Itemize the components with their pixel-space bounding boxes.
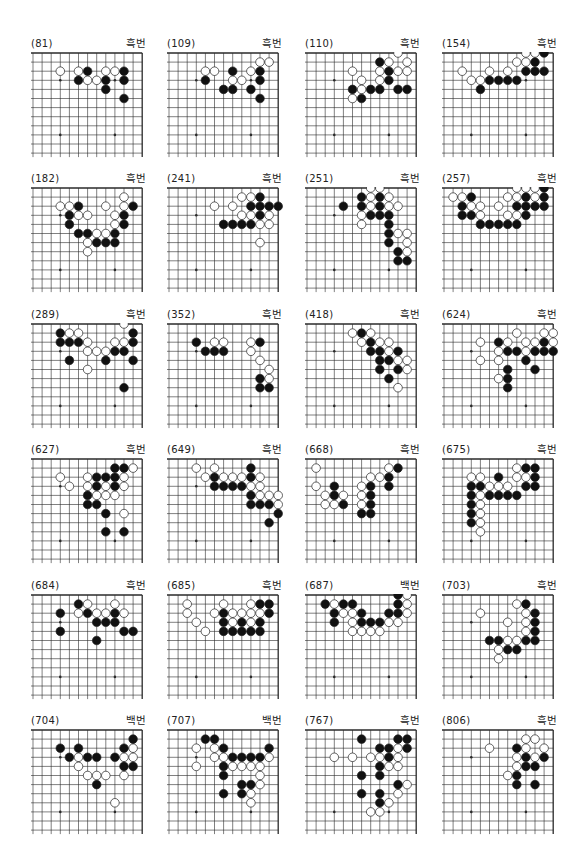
white-stone xyxy=(312,464,321,473)
black-stone xyxy=(467,509,476,518)
black-stone xyxy=(65,211,74,220)
black-stone xyxy=(531,762,540,771)
black-stone xyxy=(540,338,549,347)
white-stone xyxy=(183,609,192,618)
black-stone xyxy=(111,229,120,238)
go-problem: (649)흑번 xyxy=(167,444,282,572)
white-stone xyxy=(494,482,503,491)
star-point xyxy=(250,811,253,814)
white-stone xyxy=(348,753,357,762)
white-stone xyxy=(201,627,210,636)
black-stone xyxy=(513,347,522,356)
black-stone xyxy=(129,202,138,211)
black-stone xyxy=(111,482,120,491)
black-stone xyxy=(210,735,219,744)
black-stone xyxy=(540,67,549,76)
go-board xyxy=(167,187,284,295)
black-stone xyxy=(467,518,476,527)
white-stone xyxy=(102,347,111,356)
white-stone xyxy=(210,609,219,618)
white-stone xyxy=(476,338,485,347)
black-stone xyxy=(485,636,494,645)
go-board xyxy=(31,729,148,837)
black-stone xyxy=(503,365,512,374)
white-stone xyxy=(403,238,412,247)
problem-number: (704) xyxy=(31,715,59,726)
white-stone xyxy=(83,238,92,247)
star-point xyxy=(195,676,198,679)
black-stone xyxy=(102,76,111,85)
problem-number: (352) xyxy=(167,309,195,320)
black-stone xyxy=(531,202,540,211)
white-stone xyxy=(385,338,394,347)
black-stone xyxy=(385,238,394,247)
white-stone xyxy=(366,808,375,817)
white-stone xyxy=(394,67,403,76)
black-stone xyxy=(503,383,512,392)
black-stone xyxy=(503,76,512,85)
black-stone xyxy=(129,735,138,744)
white-stone xyxy=(540,329,549,338)
white-stone xyxy=(92,229,101,238)
white-stone xyxy=(476,491,485,500)
white-stone xyxy=(366,473,375,482)
go-problem: (627)흑번 xyxy=(31,444,146,572)
black-stone xyxy=(394,464,403,473)
black-stone xyxy=(357,193,366,202)
black-stone xyxy=(83,500,92,509)
white-stone xyxy=(256,609,265,618)
black-stone xyxy=(394,780,403,789)
white-stone xyxy=(111,67,120,76)
white-stone xyxy=(549,329,558,338)
white-stone xyxy=(385,193,394,202)
problem-number: (257) xyxy=(442,173,470,184)
black-stone xyxy=(376,799,385,808)
white-stone xyxy=(56,473,65,482)
black-stone xyxy=(256,753,265,762)
white-stone xyxy=(120,482,129,491)
black-stone xyxy=(330,618,339,627)
black-stone xyxy=(102,509,111,518)
star-point xyxy=(470,621,473,624)
white-stone xyxy=(476,518,485,527)
white-stone xyxy=(83,600,92,609)
white-stone xyxy=(256,356,265,365)
white-stone xyxy=(394,52,403,57)
white-stone xyxy=(102,609,111,618)
black-stone xyxy=(83,229,92,238)
white-stone xyxy=(540,744,549,753)
black-stone xyxy=(201,76,210,85)
black-stone xyxy=(376,211,385,220)
black-stone xyxy=(494,636,503,645)
white-stone xyxy=(321,500,330,509)
white-stone xyxy=(357,76,366,85)
black-stone xyxy=(385,374,394,383)
white-stone xyxy=(56,202,65,211)
white-stone xyxy=(376,808,385,817)
problem-number: (154) xyxy=(442,38,470,49)
white-stone xyxy=(394,744,403,753)
white-stone xyxy=(265,491,274,500)
black-stone xyxy=(111,609,120,618)
black-stone xyxy=(531,618,540,627)
white-stone xyxy=(522,338,531,347)
go-problem: (110)흑번 xyxy=(305,38,420,166)
white-stone xyxy=(394,753,403,762)
black-stone xyxy=(256,76,265,85)
white-stone xyxy=(238,473,247,482)
problem-number: (110) xyxy=(305,38,333,49)
black-stone xyxy=(219,771,228,780)
black-stone xyxy=(476,220,485,229)
problem-number: (251) xyxy=(305,173,333,184)
black-stone xyxy=(247,473,256,482)
white-stone xyxy=(120,753,129,762)
black-stone xyxy=(228,67,237,76)
black-stone xyxy=(92,482,101,491)
black-stone xyxy=(385,753,394,762)
go-board xyxy=(31,187,148,295)
go-board xyxy=(167,729,284,837)
black-stone xyxy=(321,600,330,609)
star-point xyxy=(525,134,528,137)
black-stone xyxy=(485,220,494,229)
black-stone xyxy=(247,202,256,211)
